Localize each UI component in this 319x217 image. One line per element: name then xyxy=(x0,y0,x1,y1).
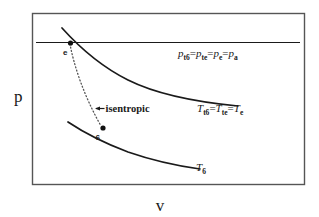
y-axis-label: p xyxy=(14,87,23,106)
point-6-marker xyxy=(100,125,105,130)
pv-diagram-figure: e 6 isentropic pt6=pte=pe=pa Tt6=Tte=Te … xyxy=(0,0,319,217)
point-e-label: e xyxy=(63,48,68,57)
x-axis-label: v xyxy=(156,196,165,215)
isentropic-annotation-label: isentropic xyxy=(106,103,150,114)
point-6-label: 6 xyxy=(96,133,101,142)
point-e-marker xyxy=(68,40,73,45)
diagram-canvas: e 6 isentropic pt6=pte=pe=pa Tt6=Tte=Te … xyxy=(0,0,319,217)
